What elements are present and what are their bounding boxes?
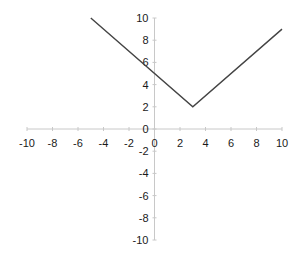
- y-tick-label: 0: [142, 123, 148, 135]
- y-tick-label: -2: [139, 145, 149, 157]
- y-tick-label: 2: [142, 101, 148, 113]
- x-tick-label: 10: [276, 137, 288, 149]
- x-tick-label: 4: [202, 137, 208, 149]
- x-tick-label: 2: [177, 137, 183, 149]
- x-tick-label: 8: [253, 137, 259, 149]
- y-tick-label: 4: [142, 79, 148, 91]
- x-tick-label: -10: [19, 137, 35, 149]
- data-series: [91, 18, 282, 107]
- y-tick-label: -6: [139, 190, 149, 202]
- x-tick-label: -6: [73, 137, 83, 149]
- y-tick-label: -10: [133, 234, 149, 246]
- x-tick-label: -4: [99, 137, 109, 149]
- y-tick-label: 8: [142, 34, 148, 46]
- y-tick-label: 10: [136, 12, 148, 24]
- series-line: [91, 18, 282, 107]
- y-tick-label: -8: [139, 212, 149, 224]
- line-chart: -10-8-6-4-20246810-10-8-6-4-20246810: [0, 0, 306, 256]
- x-tick-label: -2: [124, 137, 134, 149]
- x-tick-label: -8: [48, 137, 58, 149]
- y-tick-label: -4: [139, 167, 149, 179]
- x-tick-label: 6: [228, 137, 234, 149]
- x-tick-label: 0: [151, 137, 157, 149]
